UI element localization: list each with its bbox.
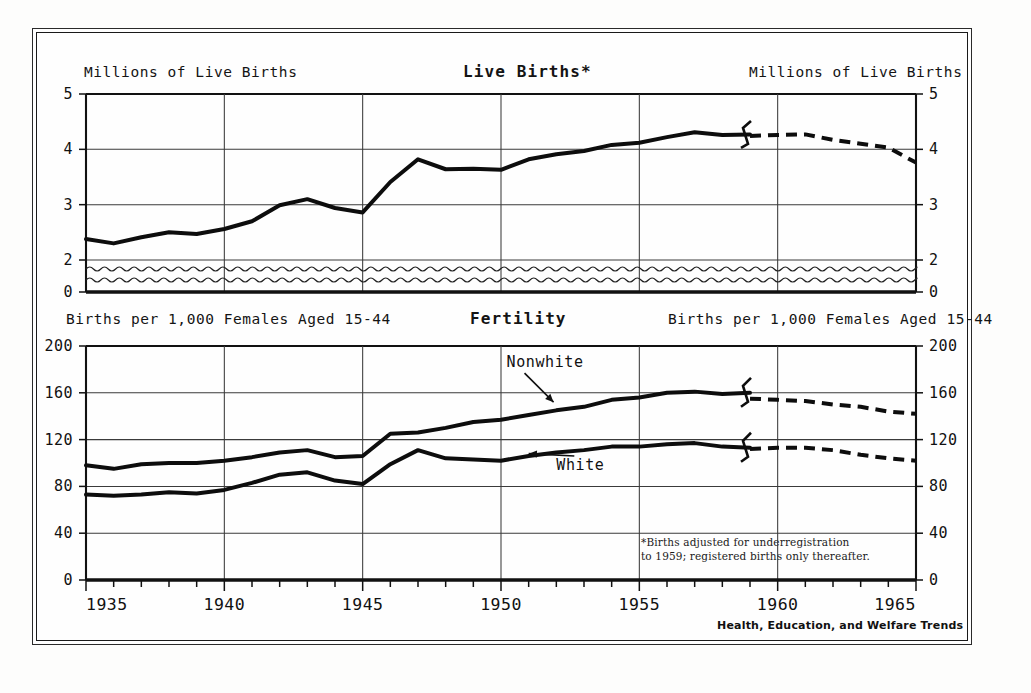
upper-series-1-dashed (750, 134, 916, 162)
lower-ytick-label-left-160: 160 (44, 384, 73, 402)
upper-ytick-label-right-0: 0 (929, 283, 939, 301)
lower-ytick-label-left-200: 200 (44, 337, 73, 355)
lower-ytick-label-right-40: 40 (929, 524, 948, 542)
lower-ytick-label-left-0: 0 (63, 571, 73, 589)
lower-series-nonwhite-dashed (750, 399, 916, 414)
lower-series-nonwhite-solid (86, 392, 750, 469)
upper-ytick-label-left-5: 5 (63, 85, 73, 103)
lower-ytick-label-right-0: 0 (929, 571, 939, 589)
upper-ytick-label-left-3: 3 (63, 196, 73, 214)
x-axis-year-1935: 1935 (86, 595, 128, 614)
fertility-chart: 0040408080120120160160200200193519401945… (32, 320, 972, 620)
upper-ytick-label-right-4: 4 (929, 140, 939, 158)
upper-ytick-label-left-0: 0 (63, 283, 73, 301)
lower-ytick-label-right-200: 200 (929, 337, 958, 355)
live-births-chart: 0022334455 (32, 60, 972, 310)
lower-ytick-label-right-80: 80 (929, 477, 948, 495)
x-axis-year-1940: 1940 (203, 595, 245, 614)
lower-ytick-label-left-80: 80 (54, 477, 73, 495)
upper-ytick-label-right-3: 3 (929, 196, 939, 214)
x-axis-year-1945: 1945 (342, 595, 384, 614)
upper-ytick-label-left-2: 2 (63, 251, 73, 269)
x-axis-year-1950: 1950 (480, 595, 522, 614)
lower-series-white-solid (86, 443, 750, 496)
series-annotation-nonwhite: Nonwhite (507, 353, 584, 371)
x-axis-year-1960: 1960 (757, 595, 799, 614)
chart-page: Millions of Live Births Live Births* Mil… (0, 0, 1031, 693)
lower-ytick-label-left-40: 40 (54, 524, 73, 542)
source-credit: Health, Education, and Welfare Trends (717, 619, 963, 632)
x-axis-year-1955: 1955 (618, 595, 660, 614)
x-axis-year-1965: 1965 (874, 595, 916, 614)
series-annotation-white: White (556, 456, 604, 474)
lower-ytick-label-left-120: 120 (44, 431, 73, 449)
upper-ytick-label-right-2: 2 (929, 251, 939, 269)
lower-series-white-dashed (750, 448, 916, 461)
lower-ytick-label-right-120: 120 (929, 431, 958, 449)
upper-ytick-label-left-4: 4 (63, 140, 73, 158)
upper-ytick-label-right-5: 5 (929, 85, 939, 103)
lower-ytick-label-right-160: 160 (929, 384, 958, 402)
